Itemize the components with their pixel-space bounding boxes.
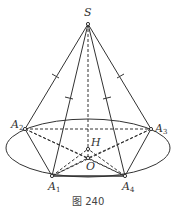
label-A4: A4 (121, 180, 135, 194)
point-A2 (23, 127, 26, 130)
label-S: S (84, 6, 92, 19)
edge-SA4 (88, 24, 125, 176)
point-A3 (149, 127, 152, 130)
edge-A4A3 (125, 129, 151, 176)
point-A4 (123, 174, 126, 177)
point-A1 (50, 174, 53, 177)
label-A2: A2 (10, 118, 23, 132)
tick-SA4 (103, 97, 111, 99)
tick-SA1 (65, 97, 73, 99)
label-A1: A1 (47, 180, 60, 194)
label-O: O (86, 160, 95, 173)
figure-caption: 图 240 (72, 196, 104, 207)
point-S (86, 22, 89, 25)
label-A3: A3 (154, 122, 167, 136)
line-A2O (25, 129, 88, 158)
edge-SA1 (52, 24, 88, 176)
line-A1O (52, 158, 88, 176)
label-H: H (90, 136, 101, 149)
point-H (86, 147, 89, 150)
pyramid-diagram: S A2 A3 A1 A4 H O 图 240 (0, 0, 175, 209)
edge-A2A1 (25, 129, 52, 176)
